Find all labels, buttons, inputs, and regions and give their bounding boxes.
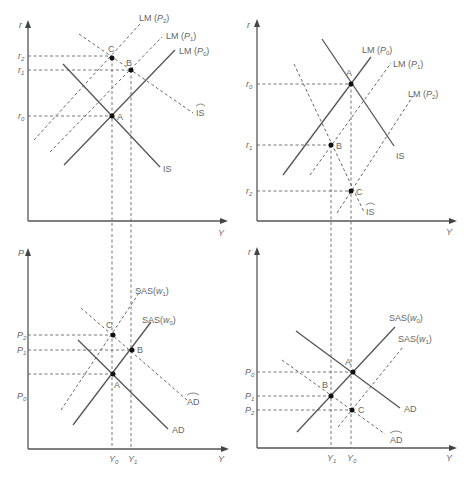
- ad-hat-label: AD: [187, 393, 200, 407]
- ad-hat-curve: [282, 360, 385, 434]
- is-hat-label: IS: [366, 203, 375, 217]
- point-a-label: A: [345, 357, 351, 367]
- y-axis-label: r: [19, 20, 23, 30]
- point-b: [130, 348, 135, 353]
- islm-ad-as-diagram: r Y C B A r2 r1 r0 LM (P2) LM (P1) LM (P…: [0, 0, 471, 479]
- point-b: [129, 68, 134, 73]
- point-c: [111, 333, 116, 338]
- point-c-label: C: [358, 405, 365, 415]
- y-axis-label: r: [247, 20, 251, 30]
- point-a: [351, 370, 356, 375]
- hat-mark: [187, 393, 199, 395]
- tick-p0: P0: [17, 391, 27, 402]
- svg-text:AD: AD: [187, 397, 200, 407]
- point-a: [111, 372, 116, 377]
- point-a-label: A: [114, 380, 120, 390]
- y-axis-label: P: [18, 248, 24, 258]
- panel-bottom-right: r Y A B C P0 P1 P2 Y1 Y0 SAS(w0) SAS(w1)…: [245, 247, 453, 464]
- point-a-label: A: [346, 68, 352, 78]
- tick-r2: r2: [18, 51, 25, 62]
- x-axis-label: Y: [446, 453, 453, 463]
- is-hat-curve: [79, 34, 193, 113]
- ad-label: AD: [404, 404, 417, 414]
- tick-y1: Y1: [327, 453, 336, 464]
- point-b: [329, 394, 334, 399]
- tick-p2: P2: [17, 330, 27, 341]
- lm-p1-curve: [50, 37, 162, 152]
- point-a: [110, 114, 115, 119]
- sas-w0-label: SAS(w0): [142, 315, 176, 326]
- svg-text:IS: IS: [366, 207, 375, 217]
- sas-w1-label: SAS(w1): [398, 334, 432, 345]
- ad-label: AD: [172, 425, 185, 435]
- lm-p1-curve: [310, 63, 391, 175]
- point-a-label: A: [117, 112, 123, 122]
- point-c-label: C: [108, 44, 115, 54]
- hat-mark: [196, 104, 205, 106]
- point-b-label: B: [126, 58, 132, 68]
- point-b: [329, 143, 334, 148]
- point-b-label: B: [336, 141, 342, 151]
- tick-p1: P1: [245, 391, 254, 402]
- is-label: IS: [396, 151, 405, 161]
- hat-mark: [366, 203, 375, 205]
- tick-y0: Y0: [347, 453, 357, 464]
- lm-p0-curve: [64, 50, 175, 165]
- svg-text:AD: AD: [390, 435, 403, 445]
- tick-p2: P2: [245, 405, 255, 416]
- lm-p0-label: LM (P0): [179, 46, 209, 57]
- ad-curve: [78, 340, 168, 429]
- point-b-label: B: [322, 380, 328, 390]
- lm-p2-label: LM (P2): [408, 89, 438, 100]
- tick-r2: r2: [246, 186, 253, 197]
- lm-p2-label: LM (P2): [139, 13, 169, 24]
- panel-top-right: r Y A B C r0 r1 r2 LM (P0) LM (P1) LM (P…: [246, 20, 453, 448]
- panel-bottom-left: P Y C B A P2 P1 P0 Y0 Y1 SAS(w1) SAS(w0)…: [17, 248, 225, 465]
- tick-r0: r0: [18, 111, 25, 122]
- point-a: [349, 82, 354, 87]
- tick-p0: P0: [245, 367, 255, 378]
- point-c-label: C: [356, 187, 363, 197]
- lm-p1-label: LM (P1): [393, 59, 423, 70]
- lm-p0-label: LM (P0): [362, 45, 392, 56]
- point-b-label: B: [137, 345, 143, 355]
- is-label: IS: [163, 164, 172, 174]
- tick-p1: P1: [17, 345, 26, 356]
- y-axis-label: r: [248, 247, 252, 257]
- point-c: [110, 56, 115, 61]
- hat-mark: [390, 431, 402, 433]
- lm-p2-curve: [34, 24, 140, 140]
- sas-w0-label: SAS(w0): [389, 313, 423, 324]
- tick-r1: r1: [246, 140, 252, 151]
- lm-p0-curve: [283, 57, 371, 175]
- ad-hat-label: AD: [390, 431, 403, 445]
- tick-y1: Y1: [128, 454, 137, 465]
- sas-w1-label: SAS(w1): [135, 286, 169, 297]
- tick-y0: Y0: [109, 454, 119, 465]
- lm-p1-label: LM (P1): [166, 31, 196, 42]
- is-curve: [322, 39, 394, 146]
- tick-r0: r0: [246, 79, 253, 90]
- x-axis-label: Y: [218, 454, 225, 464]
- tick-r1: r1: [18, 65, 24, 76]
- point-c: [350, 408, 355, 413]
- is-hat-label: IS: [196, 104, 205, 118]
- point-c-label: C: [106, 320, 113, 330]
- svg-text:IS: IS: [196, 108, 205, 118]
- point-c: [349, 189, 354, 194]
- x-axis-label: Y: [446, 227, 453, 237]
- x-axis-label: Y: [218, 228, 225, 238]
